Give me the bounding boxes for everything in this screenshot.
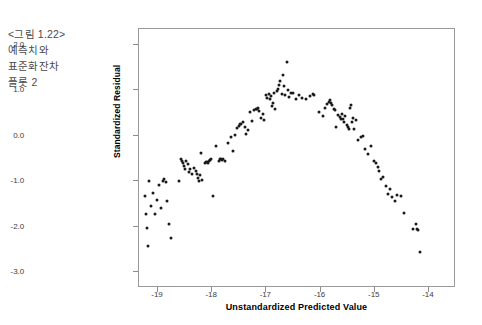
data-point	[224, 159, 227, 162]
data-point	[145, 212, 148, 215]
data-point	[146, 227, 149, 230]
data-point	[262, 112, 265, 115]
data-point	[200, 152, 203, 155]
x-axis-tick-mark	[265, 287, 266, 292]
data-point	[378, 170, 381, 173]
chart-page: <그림 1.22> 예측치와 표준화잔차 플롯 2 Standardized R…	[0, 0, 482, 325]
data-point	[160, 207, 163, 210]
data-point	[151, 192, 154, 195]
data-point	[331, 103, 334, 106]
data-point	[294, 97, 297, 100]
data-point	[143, 195, 146, 198]
data-point	[164, 181, 167, 184]
data-point	[334, 125, 337, 128]
x-axis-label: Unstandardized Predicted Value	[138, 302, 455, 312]
x-axis-tick-mark	[211, 287, 212, 292]
data-point	[257, 109, 260, 112]
data-point	[158, 184, 161, 187]
data-point	[333, 109, 336, 112]
data-point	[361, 134, 364, 137]
data-point	[414, 222, 417, 225]
data-point	[386, 192, 389, 195]
data-point	[212, 194, 215, 197]
data-point	[249, 111, 252, 114]
data-point	[367, 152, 370, 155]
data-point	[288, 95, 291, 98]
data-point	[277, 87, 280, 90]
x-axis-tick-mark	[374, 287, 375, 292]
y-axis-tick-mark	[133, 44, 138, 45]
y-axis-tick-mark	[133, 271, 138, 272]
data-point	[199, 173, 202, 176]
data-point	[353, 127, 356, 130]
y-axis-tick-mark	[133, 180, 138, 181]
data-point	[148, 180, 151, 183]
data-point	[244, 132, 247, 135]
data-point	[357, 139, 360, 142]
data-point	[231, 150, 234, 153]
data-point	[318, 111, 321, 114]
data-point	[233, 133, 236, 136]
data-point	[350, 121, 353, 124]
data-point	[394, 200, 397, 203]
data-point	[349, 103, 352, 106]
data-point	[169, 237, 172, 240]
y-axis-tick-label: -3.0	[0, 267, 24, 276]
y-axis-tick-label: 1.0	[0, 85, 24, 94]
data-point	[313, 93, 316, 96]
data-point	[165, 200, 168, 203]
data-point	[197, 176, 200, 179]
data-point	[278, 83, 281, 86]
data-point	[229, 135, 232, 138]
data-point	[376, 165, 379, 168]
data-point	[246, 129, 249, 132]
data-point	[147, 244, 150, 247]
y-axis-tick-mark	[133, 89, 138, 90]
data-point	[355, 119, 358, 122]
data-point	[382, 175, 385, 178]
data-point	[399, 194, 402, 197]
data-point	[281, 73, 284, 76]
data-point	[402, 212, 405, 215]
x-axis-tick-mark	[320, 287, 321, 292]
y-axis-label: Standardized Residual	[112, 65, 122, 158]
data-point	[301, 97, 304, 100]
data-point	[243, 125, 246, 128]
data-point	[370, 144, 373, 147]
x-axis-tick-mark	[428, 287, 429, 292]
data-point	[268, 98, 271, 101]
data-point	[271, 102, 274, 105]
plot-frame	[138, 28, 455, 287]
data-point	[263, 118, 266, 121]
data-points-layer	[139, 29, 454, 286]
y-axis-tick-label: 0.0	[0, 130, 24, 139]
y-axis-tick-label: 2.0	[0, 39, 24, 48]
data-point	[187, 162, 190, 165]
data-point	[241, 121, 244, 124]
data-point	[215, 145, 218, 148]
data-point	[305, 98, 308, 101]
y-axis-tick-mark	[133, 226, 138, 227]
y-axis-tick-label: -2.0	[0, 221, 24, 230]
data-point	[153, 213, 156, 216]
data-point	[269, 94, 272, 97]
data-point	[279, 80, 282, 83]
data-point	[297, 93, 300, 96]
data-point	[227, 141, 230, 144]
data-point	[321, 114, 324, 117]
data-point	[190, 173, 193, 176]
data-point	[251, 120, 254, 123]
data-point	[363, 148, 366, 151]
data-point	[167, 223, 170, 226]
data-point	[411, 228, 414, 231]
data-point	[210, 158, 213, 161]
data-point	[292, 91, 295, 94]
data-point	[184, 167, 187, 170]
scatter-plot: Standardized Residual Unstandardized Pre…	[0, 0, 482, 325]
data-point	[380, 178, 383, 181]
data-point	[192, 166, 195, 169]
x-axis-tick-mark	[157, 287, 158, 292]
data-point	[150, 205, 153, 208]
data-point	[201, 179, 204, 182]
y-axis-tick-mark	[133, 135, 138, 136]
